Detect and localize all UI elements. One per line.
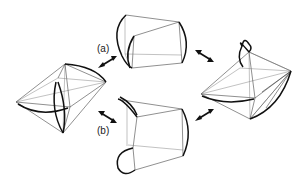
shape-bottom	[117, 97, 188, 174]
shape-left	[16, 64, 106, 133]
shape-right	[201, 40, 291, 119]
arrow-a	[98, 56, 117, 68]
arrow-top-right	[195, 50, 214, 62]
label-a: (a)	[97, 43, 109, 54]
arrow-b	[98, 111, 117, 123]
arrow-bottom-right	[195, 109, 214, 121]
label-b: (b)	[97, 125, 109, 136]
shape-top	[117, 15, 186, 68]
polyhedra-transition-diagram: (a) (b)	[0, 0, 300, 183]
